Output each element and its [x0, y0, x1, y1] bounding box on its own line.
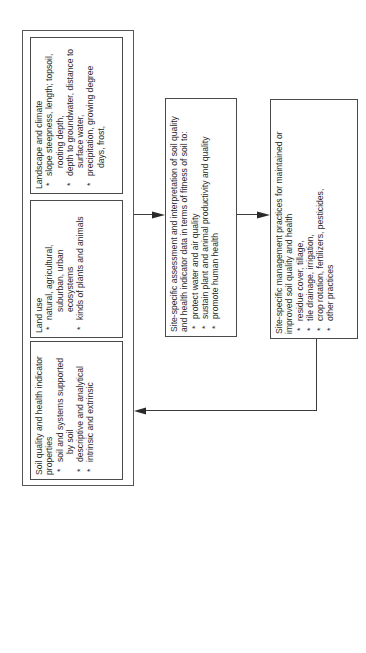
soil-quality-title-cont: properties — [44, 345, 54, 475]
assessment-box: Site-specific assessment and interpretat… — [165, 98, 237, 337]
land-use-box: Land use natural, agricultural, suburban… — [30, 200, 123, 338]
bullet-item: crop rotation, fertilizers, pesticides, — [315, 103, 325, 334]
bullet-item: tile drainage, irrigation, — [305, 103, 315, 334]
feedback-line-vertical — [316, 339, 317, 411]
arrowhead-icon — [134, 408, 146, 415]
soil-quality-indicator-box: Soil quality and health indicator proper… — [30, 341, 123, 480]
bullet-item: descriptive and analytical — [75, 345, 85, 475]
bullet-item: precipitation, growing degree days, fros… — [85, 41, 106, 189]
management-practices-box: Site-specific management practices for m… — [270, 99, 358, 339]
bullet-item: residue cover, tillage, — [295, 103, 305, 334]
bullet-item: slope steepness, length; topsoil, rootin… — [44, 41, 65, 189]
bullet-item: kinds of plants and animals — [75, 204, 85, 333]
arrowhead-icon — [152, 212, 165, 219]
land-use-title: Land use — [34, 204, 44, 333]
arrowhead-icon — [257, 212, 270, 219]
connector-assessment-to-management — [237, 214, 259, 215]
bullet-item: promote human health — [210, 102, 220, 332]
feedback-line-horizontal — [145, 410, 317, 411]
soil-quality-title: Soil quality and health indicator — [34, 345, 44, 475]
landscape-title: Landscape and climate — [34, 41, 44, 189]
management-title: Site-specific management practices for m… — [274, 103, 284, 334]
soil-quality-flow-diagram: Soil quality and health indicator proper… — [0, 0, 366, 653]
assessment-title-cont: and health indicator data in terms of fi… — [179, 102, 189, 332]
assessment-title: Site-specific assessment and interpretat… — [169, 102, 179, 332]
bullet-item: protect water and air quality — [190, 102, 200, 332]
bullet-item: other practices — [325, 103, 335, 334]
bullet-item: sustain plant and animal productivity an… — [200, 102, 210, 332]
connector-group-to-assessment — [134, 214, 154, 215]
bullet-item: intrinsic and extrinsic — [85, 345, 95, 475]
bullet-item: soil and systems supported by soil — [55, 345, 76, 475]
landscape-climate-box: Landscape and climate slope steepness, l… — [30, 37, 123, 194]
bullet-item: depth to groundwater, distance to surfac… — [65, 41, 86, 189]
bullet-item: natural, agricultural, suburban, urban e… — [44, 204, 75, 333]
management-title-cont: improved soil quality and health — [284, 103, 294, 334]
